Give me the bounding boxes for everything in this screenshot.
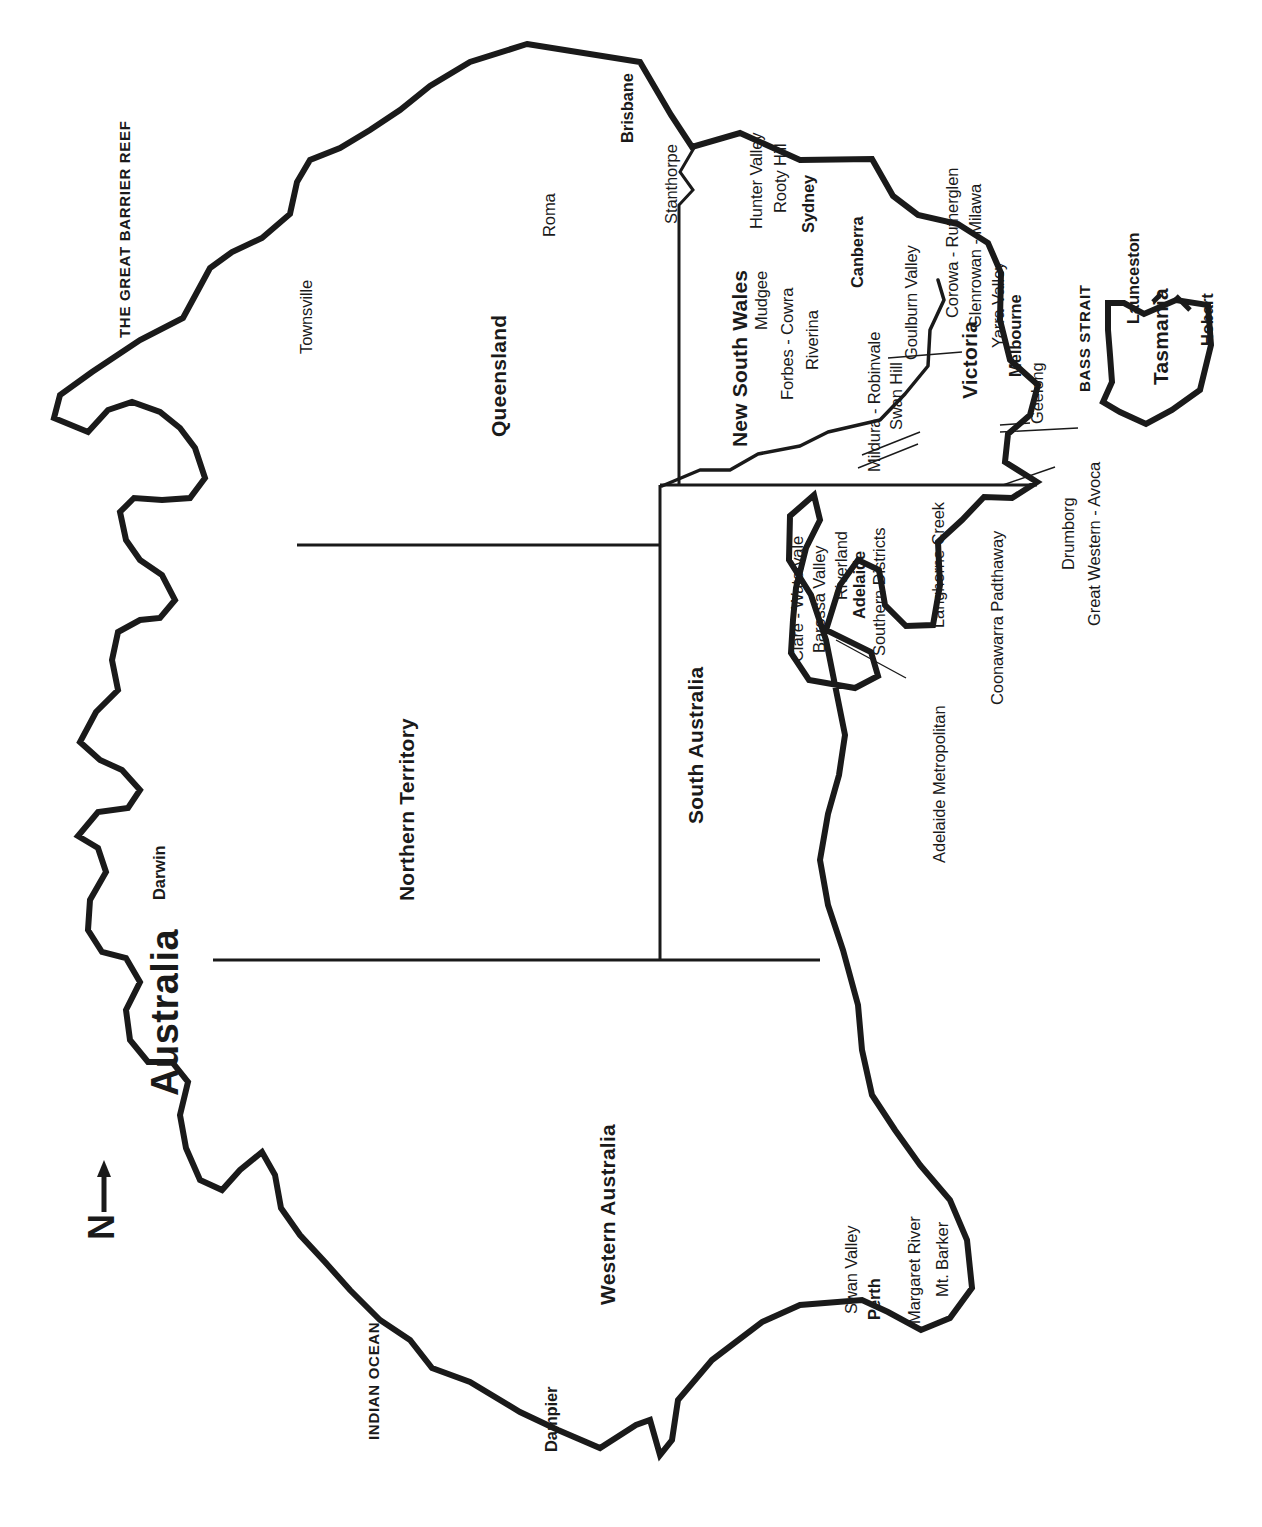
city-label-launceston: Launceston (1125, 232, 1142, 324)
capital-label-canberra: Canberra (849, 216, 866, 288)
region-label-coonawarra-padthaway: Coonawarra Padthaway (989, 531, 1006, 705)
state-label-new-south-wales: New South Wales (729, 270, 750, 447)
region-label-mt-barker: Mt. Barker (934, 1222, 951, 1297)
capital-label-melbourne: Melbourne (1007, 294, 1024, 377)
region-label-langhorne-creek: Langhorne Creek (930, 502, 947, 628)
capital-label-darwin: Darwin (151, 846, 168, 900)
region-label-rooty-hill: Rooty Hill (772, 143, 789, 213)
mainland-coastline-path (54, 44, 1038, 1455)
region-label-southern-districts: Southern Districts (871, 528, 888, 656)
state-label-tasmania: Tasmania (1150, 288, 1171, 385)
region-label-mudgee: Mudgee (753, 271, 770, 330)
capital-label-sydney: Sydney (800, 175, 817, 233)
region-label-goulburn-valley: Goulburn Valley (903, 245, 920, 360)
city-label-townsville: Townsville (298, 280, 315, 354)
state-label-victoria: Victoria (959, 321, 980, 399)
state-label-queensland: Queensland (488, 315, 509, 437)
compass-north-label: N (84, 1214, 120, 1240)
region-label-riverina: Riverina (804, 310, 821, 370)
region-label-hunter-valley: Hunter Valley (748, 132, 765, 229)
region-label-drumborg: Drumborg (1060, 497, 1077, 570)
capital-label-brisbane: Brisbane (619, 73, 636, 143)
capital-label-perth: Perth (866, 1278, 883, 1320)
map-geometry (0, 0, 1262, 1527)
region-label-yarra-valley: Yarra Valley (990, 262, 1007, 348)
capital-label-adelaide: Adelaide (851, 551, 868, 619)
region-label-barossa-valley: Barossa Valley (811, 546, 828, 653)
city-label-geelong: Geelong (1029, 362, 1046, 424)
australia-wine-regions-map: Australia N THE GREAT BARRIER REEF INDIA… (0, 0, 1262, 1527)
water-label-indian-ocean: INDIAN OCEAN (366, 1322, 381, 1440)
map-title: Australia (146, 929, 184, 1096)
region-label-glenrowan-milawa: Glenrowan - Milawa (967, 184, 984, 328)
region-label-roma: Roma (541, 193, 558, 237)
state-label-south-australia: South Australia (685, 667, 706, 824)
state-label-northern-territory: Northern Territory (396, 718, 417, 901)
region-label-adelaide-metropolitan: Adelaide Metropolitan (931, 705, 948, 863)
region-label-swan-hill: Swan Hill (888, 362, 905, 430)
region-label-corowa-rutherglen: Corowa - Rutherglen (944, 168, 961, 318)
region-label-margaret-river: Margaret River (906, 1216, 923, 1324)
water-label-great-barrier-reef: THE GREAT BARRIER REEF (117, 120, 132, 338)
region-label-riverland: Riverland (833, 531, 850, 600)
region-label-great-western-avoca: Great Western - Avoca (1086, 462, 1103, 626)
city-label-dampier: Dampier (543, 1387, 560, 1452)
north-arrow-icon (97, 1160, 111, 1212)
region-label-stanthorpe: Stanthorpe (663, 144, 680, 224)
region-label-forbes-cowra: Forbes - Cowra (779, 288, 796, 400)
region-label-clare-watervale: Clare - Watervale (789, 536, 806, 662)
capital-label-hobart: Hobart (1199, 293, 1216, 346)
region-label-mildura-robinvale: Mildura - Robinvale (866, 332, 883, 472)
state-label-western-australia: Western Australia (597, 1124, 618, 1305)
water-label-bass-strait: BASS STRAIT (1077, 284, 1092, 392)
region-label-swan-valley: Swan Valley (843, 1226, 860, 1314)
